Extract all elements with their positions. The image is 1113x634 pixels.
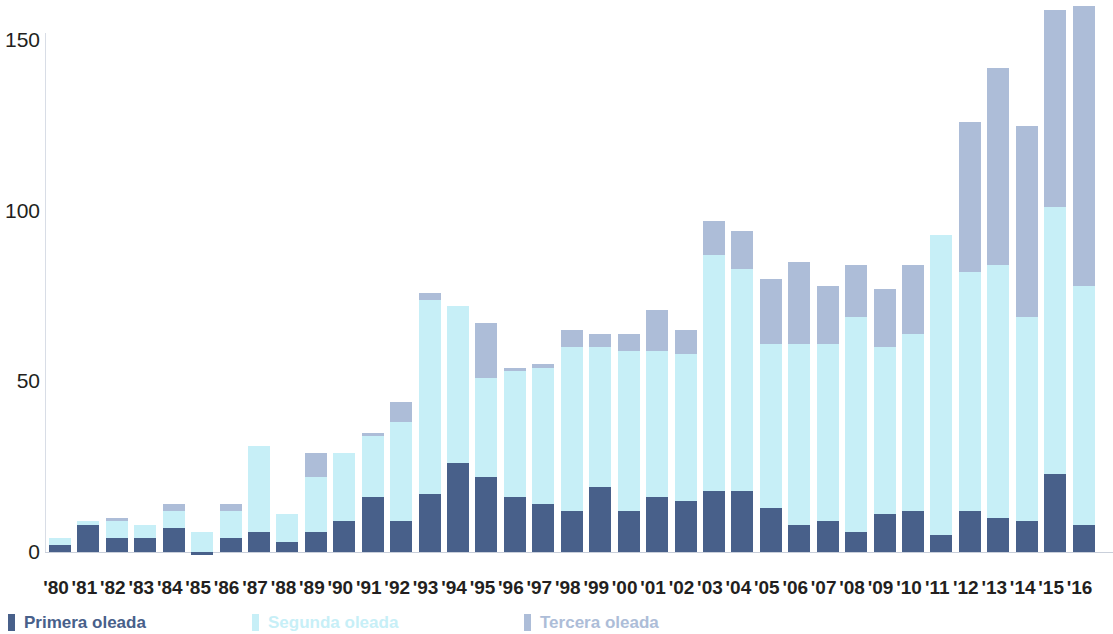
bar-segment-2 (561, 347, 583, 511)
bar-segment-1 (675, 501, 697, 552)
bar-segment-2 (675, 354, 697, 501)
bar-91 (362, 433, 384, 552)
bar-12 (959, 122, 981, 552)
bar-segment-1 (248, 532, 270, 552)
x-axis-tick-98: '98 (553, 578, 583, 599)
x-axis-tick-05: '05 (752, 578, 782, 599)
bar-segment-1 (1073, 525, 1095, 552)
bar-07 (817, 286, 839, 552)
bar-segment-1 (390, 521, 412, 552)
x-axis-tick-82: '82 (98, 578, 128, 599)
x-axis-tick-84: '84 (155, 578, 185, 599)
bar-segment-2 (447, 306, 469, 463)
bar-segment-2 (220, 511, 242, 538)
bar-segment-2 (475, 378, 497, 477)
x-axis-tick-08: '08 (837, 578, 867, 599)
bar-segment-2 (191, 532, 213, 552)
bar-segment-3 (675, 330, 697, 354)
bar-segment-1 (49, 545, 71, 552)
bar-segment-2 (618, 351, 640, 511)
legend-item-1[interactable]: Primera oleada (8, 614, 146, 631)
bar-segment-2 (902, 334, 924, 511)
x-axis-tick-04: '04 (723, 578, 753, 599)
bar-96 (504, 368, 526, 552)
x-axis-tick-89: '89 (297, 578, 327, 599)
x-axis-tick-90: '90 (325, 578, 355, 599)
x-axis-tick-96: '96 (496, 578, 526, 599)
bar-segment-1 (333, 521, 355, 552)
bar-13 (987, 68, 1009, 552)
bar-segment-3 (845, 265, 867, 316)
bar-segment-1 (475, 477, 497, 552)
bar-95 (475, 323, 497, 552)
legend-item-3[interactable]: Tercera oleada (524, 614, 659, 631)
bar-93 (419, 293, 441, 552)
bar-segment-2 (362, 436, 384, 497)
x-axis-tick-03: '03 (695, 578, 725, 599)
x-axis-tick-06: '06 (780, 578, 810, 599)
x-axis-tick-80: '80 (41, 578, 71, 599)
bar-segment-1 (106, 538, 128, 552)
bar-segment-2 (163, 511, 185, 528)
bar-segment-1 (77, 525, 99, 552)
x-axis-tick-16: '16 (1065, 578, 1095, 599)
bar-segment-2 (1016, 317, 1038, 522)
bar-segment-1 (845, 532, 867, 552)
bar-segment-2 (390, 422, 412, 521)
bar-00 (618, 334, 640, 552)
legend-item-2[interactable]: Segunda oleada (252, 614, 398, 631)
bar-segment-1 (1044, 474, 1066, 552)
bar-segment-2 (703, 255, 725, 490)
bar-06 (788, 262, 810, 552)
bar-segment-2 (646, 351, 668, 498)
legend-swatch-primera (8, 614, 15, 631)
bar-segment-1 (817, 521, 839, 552)
y-axis-tick-labels: 050100150 (0, 0, 40, 552)
bar-segment-3 (987, 68, 1009, 266)
bar-group (47, 0, 1113, 552)
x-axis-tick-00: '00 (610, 578, 640, 599)
bar-85 (191, 532, 213, 556)
bar-segment-1 (305, 532, 327, 552)
x-axis-tick-10: '10 (894, 578, 924, 599)
bar-segment-1 (760, 508, 782, 552)
bar-segment-1 (1016, 521, 1038, 552)
legend-label-2: Segunda oleada (268, 614, 398, 631)
bar-94 (447, 306, 469, 552)
bar-segment-1 (163, 528, 185, 552)
bar-segment-2 (333, 453, 355, 521)
y-axis-tick-150: 150 (0, 29, 40, 50)
bar-segment-1 (902, 511, 924, 552)
bar-segment-3 (703, 221, 725, 255)
bar-segment-1 (874, 514, 896, 552)
bar-segment-2 (276, 514, 298, 541)
bar-segment-3 (475, 323, 497, 378)
bar-segment-3 (220, 504, 242, 511)
bar-segment-2 (930, 235, 952, 535)
bar-segment-2 (49, 538, 71, 545)
bar-segment-3 (760, 279, 782, 344)
bar-15 (1044, 10, 1066, 552)
bar-segment-3 (646, 310, 668, 351)
y-axis-tick-0: 0 (0, 541, 40, 562)
bar-segment-3 (1073, 6, 1095, 286)
bar-segment-3 (731, 231, 753, 269)
x-axis-tick-88: '88 (268, 578, 298, 599)
x-axis-tick-93: '93 (411, 578, 441, 599)
bar-segment-1 (276, 542, 298, 552)
bar-90 (333, 453, 355, 552)
x-axis-tick-86: '86 (212, 578, 242, 599)
bar-segment-2 (959, 272, 981, 511)
legend-swatch-tercera (524, 614, 531, 631)
bar-segment-1 (561, 511, 583, 552)
bar-89 (305, 453, 327, 552)
bar-segment-1 (134, 538, 156, 552)
bar-segment-1 (220, 538, 242, 552)
bar-segment-2 (589, 347, 611, 487)
bar-segment-3 (959, 122, 981, 272)
bar-99 (589, 334, 611, 552)
bar-segment-2 (987, 265, 1009, 517)
bar-88 (276, 514, 298, 552)
x-axis-tick-83: '83 (126, 578, 156, 599)
bar-81 (77, 521, 99, 552)
